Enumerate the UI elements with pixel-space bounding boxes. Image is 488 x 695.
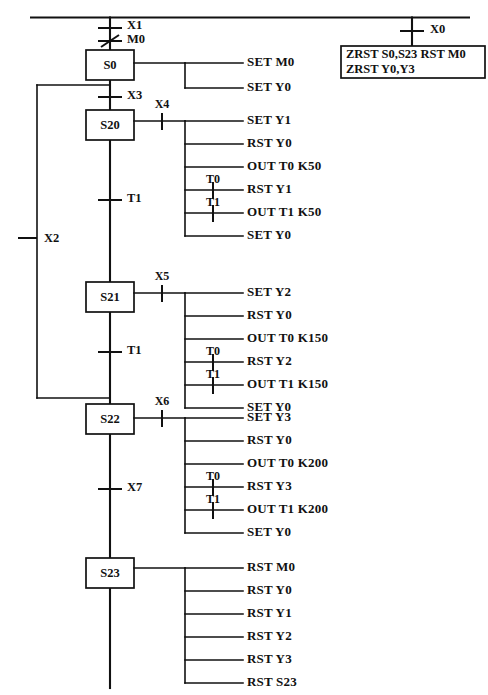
transition-label-x7: X7 (127, 480, 142, 494)
output-s20-1: RST Y0 (247, 135, 292, 150)
transition-label-x3: X3 (127, 88, 142, 102)
output-s20-5: SET Y0 (247, 227, 291, 242)
output-s22-3: RST Y3 (247, 478, 292, 493)
output-s21-2: OUT T0 K150 (247, 330, 328, 345)
contact-label-s21-t1: T1 (206, 367, 220, 381)
output-s23-3: RST Y2 (247, 628, 292, 643)
state-label-s0: S0 (103, 58, 116, 72)
output-s22-0: SET Y3 (247, 409, 291, 424)
s23-output-branch (134, 568, 243, 683)
state-label-s20: S20 (100, 118, 119, 132)
output-s22-2: OUT T0 K200 (247, 455, 328, 470)
reset-instruction-line-0: ZRST S0,S23 RST M0 (346, 47, 466, 61)
transition-label-s21-exit: T1 (127, 343, 142, 357)
contact-label-x5: X5 (155, 269, 170, 283)
reset-instruction-line-1: ZRST Y0,Y3 (346, 62, 415, 76)
output-s22-1: RST Y0 (247, 432, 292, 447)
s0-output-branch (134, 63, 243, 88)
s21-output-branch (134, 285, 243, 408)
s20-output-branch (134, 113, 243, 236)
s22-output-branch (134, 410, 243, 533)
output-s21-0: SET Y2 (247, 284, 291, 299)
transition-label-m0: M0 (127, 32, 145, 46)
contact-label-s20-t0: T0 (206, 172, 220, 186)
output-s23-1: RST Y0 (247, 582, 292, 597)
state-label-s22: S22 (100, 412, 119, 426)
output-s23-2: RST Y1 (247, 605, 292, 620)
state-label-s21: S21 (100, 290, 119, 304)
contact-label-s20-t1: T1 (206, 195, 220, 209)
output-s20-4: OUT T1 K50 (247, 204, 321, 219)
transition-label-x1: X1 (127, 18, 142, 32)
contact-label-x4: X4 (155, 97, 170, 111)
contact-label-s22-t0: T0 (206, 469, 220, 483)
output-s23-5: RST S23 (247, 674, 297, 689)
output-s20-2: OUT T0 K50 (247, 158, 321, 173)
sfc-diagram-canvas: X2 X1 M0 S0 SET M0 (0, 0, 488, 695)
transition-label-s20-exit: T1 (127, 191, 142, 205)
output-s23-4: RST Y3 (247, 651, 292, 666)
output-s21-4: OUT T1 K150 (247, 376, 328, 391)
contact-label-s21-t0: T0 (206, 344, 220, 358)
contact-label-x6: X6 (155, 394, 170, 408)
output-s21-1: RST Y0 (247, 307, 292, 322)
contact-label-x2: X2 (44, 231, 59, 245)
output-s23-0: RST M0 (247, 559, 295, 574)
contact-label-s22-t1: T1 (206, 492, 220, 506)
output-s22-4: OUT T1 K200 (247, 501, 328, 516)
output-s20-3: RST Y1 (247, 181, 292, 196)
output-s21-3: RST Y2 (247, 353, 292, 368)
output-s0-1: SET Y0 (247, 79, 291, 94)
sfc-svg: X2 X1 M0 S0 SET M0 (0, 0, 488, 695)
state-label-s23: S23 (100, 566, 119, 580)
contact-label-x0: X0 (430, 22, 445, 36)
output-s22-5: SET Y0 (247, 524, 291, 539)
output-s20-0: SET Y1 (247, 112, 291, 127)
output-s0-0: SET M0 (247, 54, 295, 69)
reset-rung-wire (400, 18, 424, 47)
